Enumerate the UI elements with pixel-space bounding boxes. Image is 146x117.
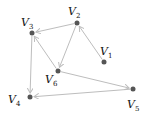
node-v5 [131, 87, 136, 92]
node-v4 [28, 95, 33, 100]
node-v3 [30, 31, 35, 36]
edge-v5-v4 [34, 89, 130, 96]
node-v1 [102, 60, 107, 65]
node-label-v6: V6 [45, 73, 58, 88]
edge-v6-v5 [61, 72, 129, 88]
node-label-v1: V1 [100, 45, 112, 60]
edge-v1-v2 [79, 26, 102, 59]
nodes [28, 21, 136, 100]
node-v2 [75, 21, 80, 26]
node-label-v3: V3 [21, 16, 33, 31]
node-label-v2: V2 [68, 5, 80, 20]
edge-v6-v3 [34, 36, 56, 68]
directed-graph: V1V2V3V4V5V6 [0, 0, 146, 117]
node-label-v5: V5 [127, 98, 139, 113]
edge-v3-v4 [30, 36, 32, 93]
edge-v2-v6 [59, 26, 75, 67]
node-label-v4: V4 [8, 93, 21, 108]
edge-v2-v3 [36, 24, 74, 32]
node-v6 [56, 69, 61, 74]
